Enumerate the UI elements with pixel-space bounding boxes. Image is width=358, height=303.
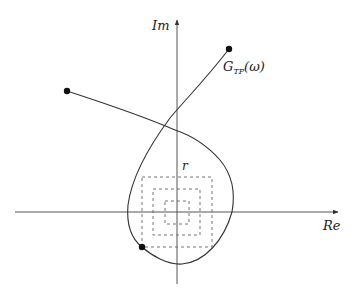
radius-label: r xyxy=(182,159,189,173)
lower-left-point-dot xyxy=(139,244,145,250)
upper-right-endpoint-dot xyxy=(226,46,232,52)
second-curve xyxy=(67,91,175,130)
real-axis-label: Re xyxy=(322,218,341,233)
curve-label-arg: (ω) xyxy=(244,59,265,74)
imag-axis-label: Im xyxy=(151,18,169,33)
left-endpoint-dot xyxy=(64,88,70,94)
nyquist-diagram: Im Re r GTP(ω) xyxy=(0,0,358,303)
curve-label: GTP(ω) xyxy=(223,59,265,76)
gtp-curve xyxy=(128,49,234,264)
curve-label-sub: TP xyxy=(233,67,244,76)
curve-label-main: G xyxy=(223,59,233,74)
